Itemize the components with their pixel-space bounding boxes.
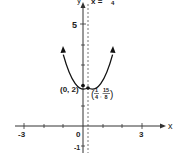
curve-arrow-left-icon — [61, 46, 67, 53]
symmetry-label: x = — [91, 0, 103, 6]
y-axis-arrow-icon — [81, 2, 86, 8]
tick-label-3: 3 — [139, 130, 144, 139]
x-axis-label: x — [168, 121, 173, 131]
tick-label-0: 0 — [76, 130, 81, 139]
svg-text:1: 1 — [95, 87, 98, 93]
svg-text:8: 8 — [105, 94, 108, 100]
tick-label-neg3: -3 — [18, 130, 26, 139]
point-label-0-2: (0, 2) — [60, 85, 79, 94]
vertex-label: ( 1 4 , 15 8 ) — [91, 87, 113, 100]
point-0-2 — [81, 84, 85, 88]
tick-label-neg1: -1 — [74, 144, 80, 151]
point-vertex — [86, 86, 90, 90]
svg-text:15: 15 — [103, 87, 109, 93]
parabola-curve — [63, 55, 112, 90]
y-axis-label: y — [77, 0, 81, 5]
x-axis-arrow-icon — [160, 124, 166, 129]
svg-text:4: 4 — [95, 94, 99, 100]
chart: x y x = 4 -3 0 3 5 -1 (0, 2) ( 1 4 , 15 … — [0, 0, 184, 167]
curve-arrow-right-icon — [110, 46, 116, 53]
symmetry-den: 4 — [111, 0, 115, 6]
svg-text:,: , — [100, 92, 102, 98]
tick-label-5: 5 — [72, 20, 77, 30]
svg-text:): ) — [110, 89, 113, 100]
